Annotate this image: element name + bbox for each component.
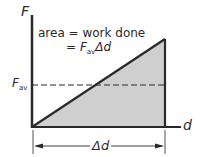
fav-subscript: av [19, 84, 27, 92]
average-force-label: Fav [12, 77, 27, 92]
x-axis-label: d [183, 118, 192, 132]
displacement-label: Δd [90, 139, 111, 152]
arrowhead-right-icon [155, 144, 164, 149]
annotation-delta-d: Δd [95, 40, 111, 54]
annotation-line-2: = FavΔd [66, 41, 111, 56]
annotation-line-1: area = work done [38, 27, 145, 39]
annotation-equals: = [66, 40, 80, 54]
annotation-subscript: av [87, 48, 95, 56]
annotation-F: F [80, 40, 87, 54]
y-axis-label: F [21, 4, 29, 18]
force-displacement-graph [0, 0, 202, 157]
fav-symbol: F [12, 76, 19, 90]
arrowhead-left-icon [34, 144, 43, 149]
